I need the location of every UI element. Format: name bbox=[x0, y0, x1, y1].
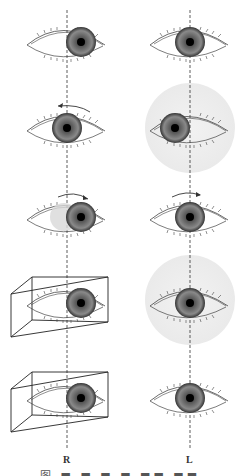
eye-r-row1 bbox=[27, 27, 105, 62]
eye-l-row5 bbox=[150, 383, 228, 418]
eye-l-row3 bbox=[150, 202, 228, 237]
figure-caption: 图 ■ ■ ■ ■ ■■ ■■ bbox=[40, 470, 210, 476]
label-left-eye: L bbox=[186, 454, 193, 465]
eye-r-row5 bbox=[27, 383, 105, 418]
eye-r-row4 bbox=[27, 288, 105, 323]
arrow-left-icon bbox=[58, 106, 90, 112]
label-right-eye: R bbox=[63, 454, 70, 465]
eye-r-row3 bbox=[27, 202, 105, 237]
eye-diagram bbox=[0, 0, 242, 476]
eye-l-row1 bbox=[150, 27, 228, 62]
eye-r-row2 bbox=[27, 113, 105, 148]
arrow-right-icon bbox=[172, 193, 200, 197]
